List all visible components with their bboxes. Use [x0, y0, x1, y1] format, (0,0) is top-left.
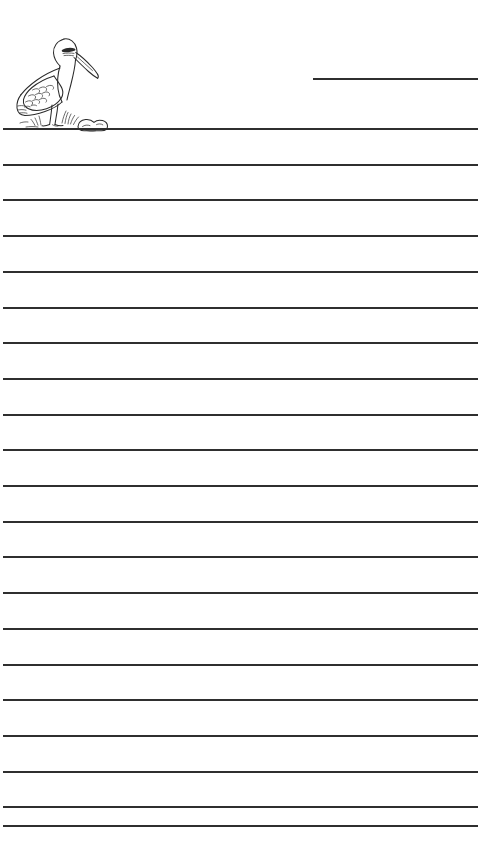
ruled-line	[3, 271, 478, 273]
ruled-line	[3, 307, 478, 309]
ruled-line	[3, 664, 478, 666]
ruled-line	[3, 628, 478, 630]
ruled-line	[3, 556, 478, 558]
writing-paper-page	[0, 0, 504, 864]
ruled-line	[3, 825, 478, 827]
ruled-line	[3, 235, 478, 237]
ruled-line	[3, 342, 478, 344]
ruled-line	[3, 592, 478, 594]
ruled-line	[3, 128, 478, 130]
ruled-line	[3, 521, 478, 523]
ruled-line	[3, 806, 478, 808]
pelican-illustration	[8, 26, 138, 134]
ruled-line	[3, 199, 478, 201]
ruled-line	[3, 378, 478, 380]
ruled-line	[3, 164, 478, 166]
name-blank-line	[313, 78, 478, 80]
ruled-line	[3, 414, 478, 416]
ruled-line	[3, 735, 478, 737]
ruled-line	[3, 699, 478, 701]
ruled-line	[3, 771, 478, 773]
ruled-line	[3, 485, 478, 487]
ruled-line	[3, 449, 478, 451]
